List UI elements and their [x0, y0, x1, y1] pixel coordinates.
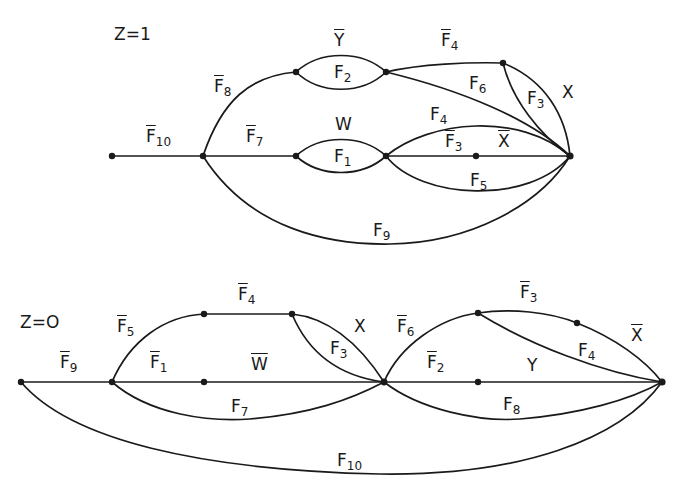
edge-label-f1bar: F1: [150, 354, 167, 374]
node: [475, 310, 481, 316]
edge-label-f3bar: F3: [520, 284, 537, 304]
node: [658, 378, 665, 385]
node: [109, 379, 115, 385]
node: [200, 153, 206, 159]
edge-label-f7: F7: [231, 398, 248, 418]
node: [383, 153, 389, 159]
edge-label-y: Y: [527, 357, 537, 374]
edge-label-x: X: [354, 318, 366, 335]
edge-label-f3: F3: [330, 340, 347, 360]
node: [383, 69, 389, 75]
graph-title-z1: Z=1: [114, 26, 151, 43]
node: [18, 379, 24, 385]
edge-label-wbar: W: [251, 356, 268, 373]
node: [293, 69, 299, 75]
edge-label-f2: F2: [334, 64, 351, 84]
edge-label-xbar: X: [631, 327, 643, 344]
edge-label-f1: F1: [334, 148, 351, 168]
node: [574, 320, 580, 326]
edge-label-f3bar: F3: [445, 133, 462, 153]
node: [293, 153, 299, 159]
edge-label-f9bar: F9: [60, 354, 77, 374]
edge-label-f10: F10: [337, 452, 362, 472]
edge-label-f5: F5: [470, 172, 487, 192]
node: [201, 311, 207, 317]
edge-label-ybar: Y: [334, 32, 344, 49]
edge-label-f8: F8: [503, 396, 520, 416]
edge-label-f9: F9: [373, 222, 390, 242]
node: [201, 379, 207, 385]
edge-label-f6bar: F6: [397, 318, 414, 338]
edge-f4: [386, 126, 570, 156]
node: [566, 152, 573, 159]
node: [381, 379, 388, 386]
edge-f4: [478, 313, 662, 382]
node: [500, 60, 506, 66]
edge-label-f4bar: F4: [441, 32, 458, 52]
edge-label-f4bar: F4: [238, 286, 255, 306]
edge-label-f8: F8: [214, 78, 231, 98]
edge-label-f3: F3: [527, 90, 544, 110]
node: [109, 153, 115, 159]
edge-label-f4: F4: [578, 342, 595, 362]
edge-label-f10: F10: [146, 128, 171, 148]
node: [473, 153, 479, 159]
edge-label-x: X: [562, 84, 574, 101]
edge-f4bar: [386, 63, 503, 72]
edge-label-f4: F4: [430, 106, 447, 126]
edge-label-f5bar: F5: [117, 318, 134, 338]
edge-label-w: W: [335, 116, 352, 133]
node: [475, 379, 481, 385]
edge-f8: [384, 382, 662, 419]
edge-label-xbar: X: [498, 133, 510, 150]
edge-label-f7: F7: [246, 128, 263, 148]
edge-label-f2bar: F2: [427, 354, 444, 374]
node: [289, 311, 295, 317]
edge-label-f6: F6: [469, 75, 486, 95]
graph-title-z0: Z=O: [20, 314, 59, 331]
